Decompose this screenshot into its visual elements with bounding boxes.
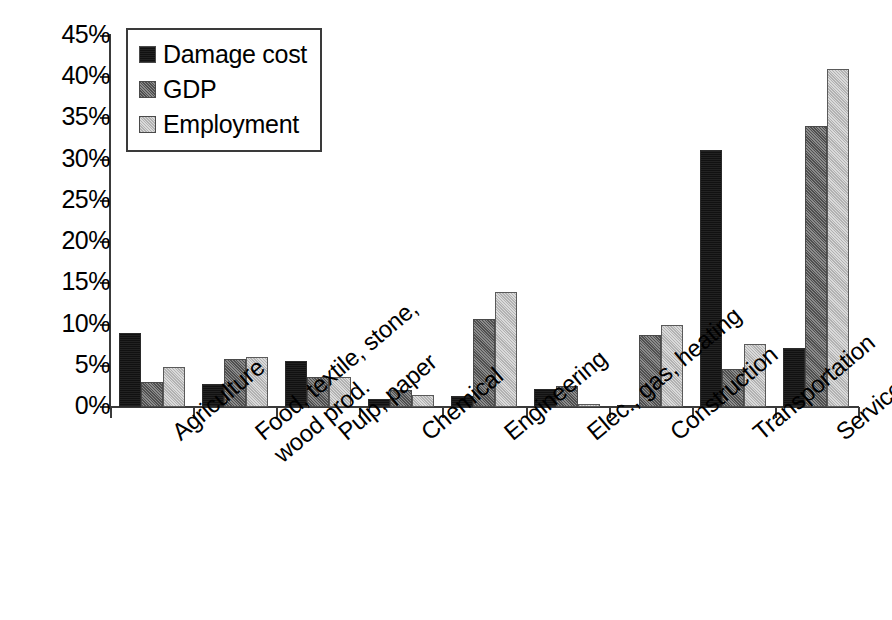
y-tick-label: 25% <box>14 187 110 212</box>
category-label-line: Food, textile, stone, <box>249 424 268 446</box>
legend-item-employment: Employment <box>139 107 307 142</box>
y-tick-label: 10% <box>14 311 110 336</box>
legend-swatch-damage-cost <box>139 46 156 63</box>
category-label-line: wood prod. <box>267 446 286 468</box>
category-label-line: Chemical <box>415 424 434 446</box>
category-label-line: Pulp, paper <box>332 424 351 446</box>
legend-label-damage-cost: Damage cost <box>163 42 307 67</box>
category-label-line: Transportation <box>747 424 766 446</box>
category-label-line: Elec., gas, heating <box>581 424 600 446</box>
bar-employment-0 <box>163 367 185 407</box>
bar-damage-cost-0 <box>119 333 141 407</box>
category-label-1: Food, textile, stone,wood prod. <box>249 424 286 468</box>
category-label-0: Agriculture <box>166 424 185 446</box>
legend-swatch-gdp <box>139 81 156 98</box>
y-tick-label: 0% <box>14 393 110 418</box>
legend-label-gdp: GDP <box>163 77 216 102</box>
category-label-line: Engineering <box>498 424 517 446</box>
category-label-2: Pulp, paper <box>332 424 351 446</box>
bar-gdp-0 <box>141 382 163 407</box>
y-tick-label: 5% <box>14 352 110 377</box>
category-label-line: Agriculture <box>166 424 185 446</box>
category-label-8: Services <box>830 424 849 446</box>
category-label-6: Construction <box>664 424 683 446</box>
bar-chart: 0%5%10%15%20%25%30%35%40%45% Agriculture… <box>0 0 892 620</box>
legend-item-damage-cost: Damage cost <box>139 37 307 72</box>
chart-legend: Damage cost GDP Employment <box>126 28 322 152</box>
category-label-line: Construction <box>664 424 683 446</box>
category-label-7: Transportation <box>747 424 766 446</box>
y-tick-label: 30% <box>14 146 110 171</box>
y-tick-label: 20% <box>14 228 110 253</box>
bar-employment-3 <box>412 395 434 407</box>
y-tick-label: 15% <box>14 269 110 294</box>
y-tick-label: 45% <box>14 22 110 47</box>
category-label-line: Services <box>830 424 849 446</box>
bar-damage-cost-7 <box>700 150 722 407</box>
y-tick-label: 35% <box>14 104 110 129</box>
legend-item-gdp: GDP <box>139 72 307 107</box>
legend-swatch-employment <box>139 116 156 133</box>
category-label-4: Engineering <box>498 424 517 446</box>
category-label-5: Elec., gas, heating <box>581 424 600 446</box>
x-tick-mark <box>110 407 112 418</box>
legend-label-employment: Employment <box>163 112 299 137</box>
category-label-3: Chemical <box>415 424 434 446</box>
y-tick-label: 40% <box>14 63 110 88</box>
bar-employment-5 <box>578 404 600 407</box>
